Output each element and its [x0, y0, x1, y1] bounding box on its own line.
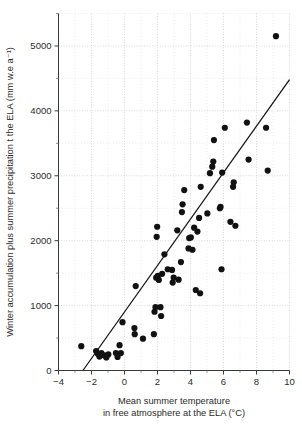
x-tick-labels: −4−20246810 [53, 376, 295, 387]
data-point [156, 277, 162, 283]
data-point [151, 331, 157, 337]
axis-frame [59, 14, 290, 371]
regression-line-group [83, 80, 290, 371]
grid-minor-group [59, 14, 290, 371]
data-point [204, 210, 210, 216]
data-point [140, 336, 146, 342]
data-point [207, 170, 213, 176]
data-point [178, 259, 184, 265]
y-tick-label: 0 [46, 365, 51, 376]
data-point [179, 201, 185, 207]
data-point [161, 251, 167, 257]
data-points-group [78, 33, 279, 361]
data-point [265, 167, 271, 173]
data-point [218, 266, 224, 272]
data-point [179, 209, 185, 215]
data-point [219, 169, 225, 175]
x-tick-label: 6 [221, 376, 226, 387]
y-axis-label: Winter accumulation plus summer precipit… [5, 47, 15, 337]
data-point [174, 227, 180, 233]
data-point [244, 119, 250, 125]
x-tick-label: 4 [188, 376, 193, 387]
x-tick-label: 2 [155, 376, 160, 387]
data-point [176, 277, 182, 283]
x-axis-label-line2: in free atmosphere at the ELA (°C) [103, 408, 245, 418]
data-point [209, 164, 215, 170]
y-tick-label: 1000 [30, 300, 51, 311]
data-point [273, 33, 279, 39]
data-point [116, 342, 122, 348]
data-point [133, 283, 139, 289]
data-point [197, 290, 203, 296]
x-tick-label: 0 [122, 376, 127, 387]
data-point [210, 158, 216, 164]
data-point [181, 187, 187, 193]
y-tick-label: 4000 [30, 105, 51, 116]
data-point [245, 156, 251, 162]
data-point [78, 343, 84, 349]
data-point [194, 228, 200, 234]
regression-line [83, 80, 290, 371]
x-tick-label: 10 [284, 376, 295, 387]
data-point [154, 224, 160, 230]
data-point [196, 215, 202, 221]
data-point [232, 223, 238, 229]
data-point [159, 271, 165, 277]
data-point [231, 179, 237, 185]
data-point [222, 125, 228, 131]
y-tick-label: 2000 [30, 235, 51, 246]
data-point [169, 267, 175, 273]
plot-canvas: −4−20246810 010002000300040005000 Winter… [0, 0, 302, 429]
data-point [119, 319, 125, 325]
x-tick-label: −2 [86, 376, 97, 387]
data-point [154, 234, 160, 240]
data-point [217, 204, 223, 210]
scatter-plot-figure: −4−20246810 010002000300040005000 Winter… [0, 0, 302, 429]
data-point [211, 137, 217, 143]
data-point [105, 351, 111, 357]
x-tick-label: 8 [254, 376, 259, 387]
x-axis-label-line1: Mean summer temperature [118, 396, 230, 406]
y-tick-label: 3000 [30, 170, 51, 181]
data-point [198, 184, 204, 190]
tick-marks [55, 14, 290, 375]
y-tick-labels: 010002000300040005000 [30, 40, 51, 376]
data-point [157, 304, 163, 310]
data-point [189, 247, 195, 253]
y-tick-label: 5000 [30, 40, 51, 51]
data-point [227, 219, 233, 225]
grid-major-group [59, 14, 290, 371]
x-tick-label: −4 [53, 376, 64, 387]
data-point [158, 313, 164, 319]
data-point [118, 350, 124, 356]
data-point [263, 125, 269, 131]
data-point [188, 234, 194, 240]
data-point [132, 331, 138, 337]
data-point [131, 325, 137, 331]
